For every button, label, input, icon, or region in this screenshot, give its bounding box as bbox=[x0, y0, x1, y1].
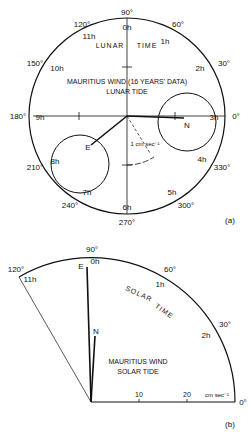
time-label-right: TIME bbox=[154, 302, 175, 320]
hour-4: 4h bbox=[198, 155, 207, 164]
panel-a-label: (a) bbox=[225, 216, 235, 225]
vector-E-label: E bbox=[85, 143, 90, 152]
harmonic-dial-figure: 90° 120° 60° 150° 30° 180° 0° 210° 330° … bbox=[0, 0, 252, 439]
hour-5: 5h bbox=[168, 188, 177, 197]
hour-1: 1h bbox=[161, 37, 170, 46]
hour-8: 8h bbox=[51, 157, 60, 166]
scale-label: 1 cm sec⁻¹ bbox=[130, 141, 159, 147]
vector-N-label: N bbox=[93, 327, 99, 336]
deg-330: 330° bbox=[214, 163, 231, 172]
tick-10: 10 bbox=[135, 391, 143, 398]
time-label-left: LUNAR bbox=[96, 42, 125, 49]
time-label-right: TIME bbox=[137, 42, 158, 49]
hour-2: 2h bbox=[202, 331, 211, 340]
hour-3: 3h bbox=[210, 113, 219, 122]
deg-90: 90° bbox=[121, 8, 133, 17]
deg-120: 120° bbox=[8, 265, 25, 274]
deg-210: 210° bbox=[27, 163, 44, 172]
hour-0: 0h bbox=[123, 23, 132, 32]
hour-11: 11h bbox=[24, 275, 37, 284]
deg-270: 270° bbox=[119, 218, 136, 227]
title-line-1: MAURITIUS WIND (16 YEARS' DATA) bbox=[67, 78, 187, 86]
deg-180: 180° bbox=[10, 112, 27, 121]
deg-150: 150° bbox=[27, 59, 44, 68]
deg-300: 300° bbox=[178, 201, 195, 210]
deg-240: 240° bbox=[62, 201, 79, 210]
title-line-2: LUNAR TIDE bbox=[106, 88, 148, 95]
lunar-tide-dial bbox=[29, 18, 225, 214]
deg-60: 60° bbox=[172, 20, 184, 29]
hour-9: 9h bbox=[36, 113, 45, 122]
deg-90: 90° bbox=[86, 245, 98, 254]
hour-7: 7h bbox=[83, 188, 92, 197]
120-deg-line bbox=[19, 277, 91, 402]
hour-10: 10h bbox=[50, 64, 63, 73]
title-line-1: MAURITIUS WIND bbox=[108, 358, 167, 365]
hour-1: 1h bbox=[156, 280, 165, 289]
vector-E-label: E bbox=[78, 262, 83, 271]
solar-tide-quadrant bbox=[19, 258, 235, 402]
hour-2: 2h bbox=[196, 64, 205, 73]
vector-N-label: N bbox=[184, 121, 190, 130]
axis-unit: cm sec⁻¹ bbox=[205, 392, 229, 398]
deg-60: 60° bbox=[164, 265, 176, 274]
deg-30: 30° bbox=[218, 59, 230, 68]
deg-30: 30° bbox=[219, 320, 231, 329]
time-label-left: SOLAR bbox=[125, 284, 154, 302]
deg-0: 0° bbox=[239, 398, 247, 407]
tick-20: 20 bbox=[183, 391, 191, 398]
panel-b-label: (b) bbox=[225, 420, 235, 429]
E-error-circle bbox=[51, 135, 109, 193]
quadrant-arc bbox=[19, 258, 235, 402]
hour-0: 0h bbox=[91, 257, 100, 266]
deg-120: 120° bbox=[74, 20, 91, 29]
hour-6: 6h bbox=[123, 203, 132, 212]
E-vector bbox=[91, 116, 127, 145]
N-vector bbox=[91, 336, 95, 402]
E-vector bbox=[87, 267, 91, 402]
deg-0: 0° bbox=[232, 112, 240, 121]
hour-11: 11h bbox=[83, 32, 96, 41]
title-line-2: SOLAR TIDE bbox=[117, 368, 159, 375]
